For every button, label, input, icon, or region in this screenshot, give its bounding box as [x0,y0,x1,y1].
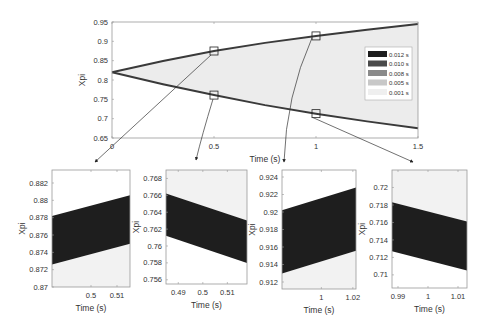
legend-label: 0.005 s [389,80,409,86]
y-tick-label: 0.716 [369,218,388,227]
x-axis-label: Time (s) [76,303,107,313]
legend-label: 0.008 s [389,71,409,77]
zoom-plot-2: 0.7560.7580.760.7620.7640.7660.7680.490.… [131,170,247,310]
x-tick-label: 0.5 [209,142,219,151]
x-tick-label: 1.02 [346,293,361,302]
y-tick-label: 0.912 [259,278,278,287]
x-axis-label: Time (s) [191,300,222,310]
zoom-plot-4: 0.710.7120.7140.7160.7180.720.9911.01Tim… [357,170,467,314]
x-tick-label: 1 [426,292,430,301]
y-tick-label: 0.85 [93,56,108,65]
y-tick-label: 0.916 [259,243,278,252]
x-tick-label: 1.01 [451,292,466,301]
y-tick-label: 0.712 [369,253,388,262]
zoom-plot-3: 0.9120.9140.9160.9180.920.9220.92411.02T… [247,170,360,315]
x-tick-label: 0.51 [220,288,235,297]
y-tick-label: 0.922 [259,190,278,199]
y-tick-label: 0.882 [29,179,48,188]
legend-label: 0.012 s [389,52,409,58]
legend-swatch [368,80,387,86]
y-tick-label: 0.7 [98,114,108,123]
y-tick-label: 0.92 [263,208,278,217]
legend-swatch [368,70,387,76]
y-tick-label: 0.756 [143,275,162,284]
y-tick-label: 0.924 [259,173,278,182]
y-axis-label: Xpi [131,221,141,233]
y-tick-label: 0.75 [93,95,108,104]
x-axis-label: Time (s) [304,305,335,315]
y-tick-label: 0.758 [143,258,162,267]
legend-swatch [368,89,387,95]
y-tick-label: 0.718 [369,201,388,210]
x-tick-label: 1.5 [413,142,423,151]
y-tick-label: 0.914 [259,260,278,269]
legend-label: 0.010 s [389,61,409,67]
x-tick-label: 0.5 [198,288,208,297]
main-plot: 0.650.70.750.80.850.90.9500.511.5Time (s… [77,18,423,164]
x-axis-label: Time (s) [414,304,445,314]
x-tick-label: 0.5 [86,291,96,300]
y-tick-label: 0.918 [259,225,278,234]
x-tick-label: 0.51 [110,291,125,300]
y-tick-label: 0.88 [33,196,48,205]
figure: 0.650.70.750.80.850.90.9500.511.5Time (s… [0,0,488,328]
x-tick-label: 0.49 [171,288,186,297]
legend-swatch [368,61,387,67]
x-tick-label: 0.99 [391,292,406,301]
y-axis-label: Xpi [77,74,87,86]
y-tick-label: 0.71 [373,270,388,279]
y-axis-label: Xpi [17,222,27,234]
x-tick-label: 1 [319,293,323,302]
legend-swatch [368,51,387,57]
y-tick-label: 0.766 [143,191,162,200]
x-tick-label: 1 [314,142,318,151]
y-tick-label: 0.76 [147,242,162,251]
y-tick-label: 0.9 [98,37,108,46]
y-tick-label: 0.762 [143,225,162,234]
y-tick-label: 0.876 [29,231,48,240]
y-tick-label: 0.768 [143,174,162,183]
y-axis-label: Xpi [357,223,367,235]
legend-label: 0.001 s [389,90,409,96]
y-axis-label: Xpi [247,223,257,235]
y-tick-label: 0.714 [369,236,388,245]
y-tick-label: 0.65 [93,134,108,143]
x-axis-label: Time (s) [250,154,281,164]
y-tick-label: 0.874 [29,248,48,257]
legend: 0.012 s0.010 s0.008 s0.005 s0.001 s [365,47,412,100]
y-tick-label: 0.8 [98,76,108,85]
y-tick-label: 0.87 [33,283,48,292]
y-tick-label: 0.872 [29,265,48,274]
y-tick-label: 0.878 [29,213,48,222]
zoom-plot-1: 0.870.8720.8740.8760.8780.880.8820.50.51… [17,170,130,313]
y-tick-label: 0.72 [373,183,388,192]
y-tick-label: 0.764 [143,208,162,217]
y-tick-label: 0.95 [93,18,108,27]
